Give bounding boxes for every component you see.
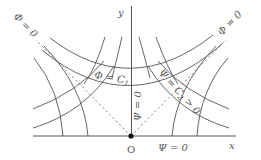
psi-zero-vertical-label: Ψ = 0 [132,90,143,121]
potential-stream-function-diagram: y x O Φ = 0 Φ = 0 Φ = C1 Ψ = C2 > 0 Ψ = … [0,0,261,160]
y-axis-label: y [117,7,124,18]
psi-curve-left-inner [44,46,88,136]
origin-point [128,133,133,138]
phi-c1-label: Φ = C1 [93,69,130,88]
x-axis-label: x [229,140,235,151]
origin-label: O [127,144,135,155]
phi-zero-left-label: Φ = 0 [12,11,41,40]
psi-curve-right-outer [197,58,228,136]
phi-zero-right-label: Φ = 0 [216,8,245,37]
psi-curve-upper-right-inner [139,37,150,78]
psi-zero-horizontal-label: Ψ = 0 [158,142,189,153]
